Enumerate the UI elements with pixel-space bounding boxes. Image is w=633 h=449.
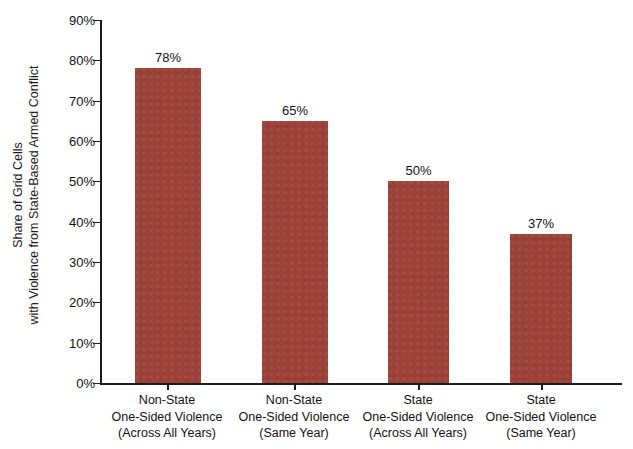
x-tick-1 bbox=[167, 383, 169, 390]
x-label-state-across-all-years: State One-Sided Violence (Across All Yea… bbox=[355, 392, 481, 442]
bar-value-label: 78% bbox=[155, 50, 181, 65]
x-label-non-state-across-all-years: Non-State One-Sided Violence (Across All… bbox=[104, 392, 230, 442]
y-axis-title-line-1: Share of Grid Cells bbox=[10, 66, 26, 325]
x-tick-2 bbox=[294, 383, 296, 390]
plot-area: 0% 10% 20% 30% 40% 50% 60% 70% 80% 90% bbox=[100, 20, 622, 383]
x-tick-4 bbox=[541, 383, 543, 390]
x-label-line-1: Non-State bbox=[231, 392, 357, 409]
bar-non-state-across-all-years[interactable]: 78% bbox=[135, 68, 201, 383]
bar-chart-figure: Share of Grid Cells with Violence from S… bbox=[0, 0, 633, 449]
x-axis-line bbox=[100, 383, 622, 385]
x-label-line-1: State bbox=[478, 392, 604, 409]
x-label-line-3: (Same Year) bbox=[231, 425, 357, 442]
x-label-state-same-year: State One-Sided Violence (Same Year) bbox=[478, 392, 604, 442]
bar-state-across-all-years[interactable]: 50% bbox=[388, 181, 449, 383]
x-label-line-3: (Across All Years) bbox=[104, 425, 230, 442]
x-label-line-1: State bbox=[355, 392, 481, 409]
x-label-line-2: One-Sided Violence bbox=[355, 409, 481, 426]
bar-value-label: 50% bbox=[405, 163, 431, 178]
bar-state-same-year[interactable]: 37% bbox=[510, 234, 572, 383]
x-label-non-state-same-year: Non-State One-Sided Violence (Same Year) bbox=[231, 392, 357, 442]
x-tick-3 bbox=[418, 383, 420, 390]
y-axis-title: Share of Grid Cells with Violence from S… bbox=[0, 0, 52, 390]
bar-value-label: 37% bbox=[528, 216, 554, 231]
y-axis-title-line-2: with Violence from State-Based Armed Con… bbox=[26, 66, 42, 325]
x-label-line-2: One-Sided Violence bbox=[478, 409, 604, 426]
x-label-line-2: One-Sided Violence bbox=[231, 409, 357, 426]
x-label-line-2: One-Sided Violence bbox=[104, 409, 230, 426]
x-label-line-1: Non-State bbox=[104, 392, 230, 409]
bar-non-state-same-year[interactable]: 65% bbox=[262, 121, 328, 383]
bar-value-label: 65% bbox=[282, 103, 308, 118]
x-label-line-3: (Across All Years) bbox=[355, 425, 481, 442]
x-label-line-3: (Same Year) bbox=[478, 425, 604, 442]
